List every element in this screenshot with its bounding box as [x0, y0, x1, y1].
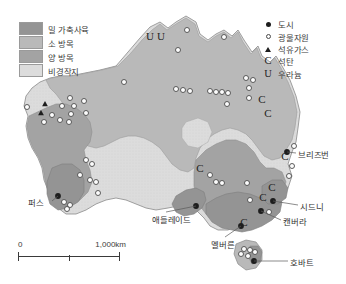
mineral-marker [94, 180, 99, 185]
mineral-marker [246, 254, 251, 259]
mineral-marker [251, 78, 256, 83]
label-leader-line [273, 201, 298, 205]
mineral-marker [208, 173, 213, 178]
legend-item-wheat-livestock: 밀 가축사육 [19, 22, 89, 35]
coal-markers-group: CCCCCCC [196, 93, 288, 228]
mineral-marker [90, 162, 95, 167]
mineral-marker [287, 174, 292, 179]
australia-land-use-map: CCCCCCC UU 밀 가축사육 소 방목 양 방목 비경작지 도시 광물 [0, 0, 346, 284]
mineral-marker [239, 252, 244, 257]
mineral-marker [78, 173, 83, 178]
scale-bar-tick-mid [69, 255, 70, 261]
legend-label-non-arable: 비경작지 [48, 65, 79, 77]
scale-bar-line [18, 251, 120, 259]
legend-swatch-sheep-grazing [19, 50, 43, 63]
mineral-marker [69, 112, 74, 117]
scale-bar-tick-end [119, 252, 120, 261]
mineral-marker [60, 104, 65, 109]
oilgas-markers-group [38, 101, 48, 115]
city-label-1: 애들레이드 [152, 213, 191, 225]
label-leader-line [166, 206, 196, 212]
mineral-marker [248, 198, 253, 203]
coal-marker: C [264, 107, 271, 119]
mineral-marker [176, 48, 181, 53]
city-label-6: 호바트 [290, 256, 313, 268]
mineral-marker [82, 99, 87, 104]
legend-label-mineral: 광물자원 [278, 31, 309, 43]
oil-gas-triangle-icon [262, 43, 274, 55]
mineral-marker [84, 111, 89, 116]
mineral-marker [253, 250, 258, 255]
mineral-marker [292, 144, 297, 149]
mineral-marker [185, 28, 190, 33]
mineral-marker [220, 90, 225, 95]
legend-swatch-cattle-grazing [19, 36, 43, 49]
mineral-marker [174, 87, 179, 92]
mineral-marker [208, 89, 213, 94]
mineral-marker [214, 90, 219, 95]
legend-item-oil-gas: 석유가스 [262, 43, 309, 55]
oil-gas-marker [42, 101, 48, 106]
coal-letter-icon: C [262, 55, 274, 67]
mineral-marker [50, 113, 55, 118]
mineral-marker [242, 247, 247, 252]
mineral-marker [222, 35, 227, 40]
mineral-marker [72, 104, 77, 109]
scale-bar: 0 1,000km [18, 240, 120, 259]
coal-marker: C [258, 93, 265, 105]
mineral-circle-icon [262, 30, 274, 42]
legend-item-mineral: 광물자원 [262, 30, 309, 42]
legend-swatch-non-arable [19, 64, 43, 77]
mineral-marker [247, 96, 252, 101]
mineral-marker [225, 102, 230, 107]
legend-label-oil-gas: 석유가스 [278, 43, 309, 55]
uranium-marker: U [157, 30, 165, 42]
mineral-marker [226, 91, 231, 96]
mineral-marker [122, 80, 127, 85]
label-leader-line [225, 226, 241, 237]
mineral-marker [245, 181, 250, 186]
legend-label-coal: 석탄 [278, 55, 294, 67]
mineral-marker [25, 105, 30, 110]
legend-label-city: 도시 [278, 18, 294, 30]
mineral-marker [188, 89, 193, 94]
city-label-4: 시드니 [300, 200, 323, 212]
mineral-marker [220, 181, 225, 186]
coal-marker: C [196, 162, 203, 174]
mineral-marker [244, 76, 249, 81]
mineral-marker [68, 96, 73, 101]
legend-label-sheep-grazing: 양 방목 [48, 51, 74, 63]
coal-marker: C [259, 191, 266, 203]
uranium-markers-group: UU [146, 30, 165, 42]
mineral-marker [181, 88, 186, 93]
mineral-marker [62, 200, 67, 205]
city-label-0: 퍼스 [28, 196, 44, 208]
city-label-5: 캔버라 [283, 215, 306, 227]
mineral-marker [96, 191, 101, 196]
scale-bar-zero-label: 0 [18, 240, 22, 249]
mineral-marker [88, 178, 93, 183]
scale-bar-max-label: 1,000km [95, 240, 126, 249]
legend-land-use: 밀 가축사육 소 방목 양 방목 비경작지 [19, 22, 89, 78]
mineral-marker [42, 120, 47, 125]
legend-label-wheat-livestock: 밀 가축사육 [48, 23, 89, 35]
legend-symbols: 도시 광물자원 석유가스 C 석탄 U 우라늄 [262, 18, 309, 80]
legend-item-non-arable: 비경작지 [19, 64, 89, 77]
city-label-3: 브리즈번 [298, 148, 329, 160]
mineral-marker [58, 118, 63, 123]
coal-marker: C [240, 216, 247, 228]
mineral-marker [247, 86, 252, 91]
legend-item-cattle-grazing: 소 방목 [19, 36, 89, 49]
mineral-marker [248, 248, 253, 253]
city-label-2: 멜버른 [211, 238, 234, 250]
legend-swatch-wheat-livestock [19, 22, 43, 35]
uranium-letter-icon: U [262, 68, 274, 80]
mineral-marker [214, 180, 219, 185]
legend-label-uranium: 우라늄 [278, 68, 301, 80]
mineral-marker [290, 164, 295, 169]
legend-item-city: 도시 [262, 18, 309, 30]
uranium-marker: U [146, 30, 154, 42]
oil-gas-marker [38, 110, 44, 115]
coal-marker: C [268, 181, 275, 193]
legend-item-coal: C 석탄 [262, 55, 309, 67]
